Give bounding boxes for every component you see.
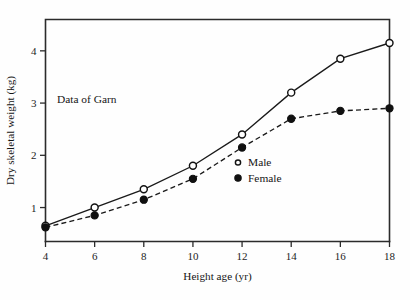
x-tick-label-6: 6 bbox=[92, 250, 98, 262]
data-point-male-6 bbox=[91, 204, 98, 211]
data-point-male-10 bbox=[189, 162, 196, 169]
legend-marker-female bbox=[235, 175, 241, 181]
x-tick-label-16: 16 bbox=[335, 250, 347, 262]
chart-annotation: Data of Garn bbox=[57, 93, 117, 105]
y-tick-label-4: 4 bbox=[31, 45, 37, 57]
y-tick-label-2: 2 bbox=[31, 149, 37, 161]
legend-label-female: Female bbox=[248, 172, 282, 184]
series-line-male bbox=[46, 43, 390, 226]
data-point-female-18 bbox=[386, 105, 393, 112]
x-axis-title: Height age (yr) bbox=[183, 270, 252, 283]
data-point-female-4 bbox=[42, 224, 49, 231]
data-point-female-12 bbox=[238, 144, 245, 151]
x-tick-label-4: 4 bbox=[43, 250, 49, 262]
data-point-male-8 bbox=[140, 186, 147, 193]
x-tick-label-12: 12 bbox=[237, 250, 248, 262]
legend-label-male: Male bbox=[248, 156, 271, 168]
x-tick-label-18: 18 bbox=[384, 250, 396, 262]
data-point-female-16 bbox=[337, 107, 344, 114]
chart-canvas: 12344681012141618Height age (yr)Dry skel… bbox=[0, 0, 410, 300]
x-tick-label-8: 8 bbox=[141, 250, 147, 262]
legend-marker-male bbox=[235, 160, 240, 165]
data-point-female-10 bbox=[189, 175, 196, 182]
y-axis-title: Dry skeletal weight (kg) bbox=[4, 76, 17, 185]
y-tick-label-3: 3 bbox=[31, 97, 37, 109]
data-point-female-8 bbox=[140, 196, 147, 203]
data-point-male-12 bbox=[239, 131, 246, 138]
data-point-male-16 bbox=[337, 55, 344, 62]
data-point-female-6 bbox=[91, 212, 98, 219]
x-tick-label-14: 14 bbox=[286, 250, 298, 262]
data-point-male-14 bbox=[288, 89, 295, 96]
chart-figure: 12344681012141618Height age (yr)Dry skel… bbox=[0, 0, 410, 300]
y-tick-label-1: 1 bbox=[31, 202, 37, 214]
data-point-male-18 bbox=[386, 40, 393, 47]
x-tick-label-10: 10 bbox=[187, 250, 199, 262]
data-point-female-14 bbox=[288, 115, 295, 122]
